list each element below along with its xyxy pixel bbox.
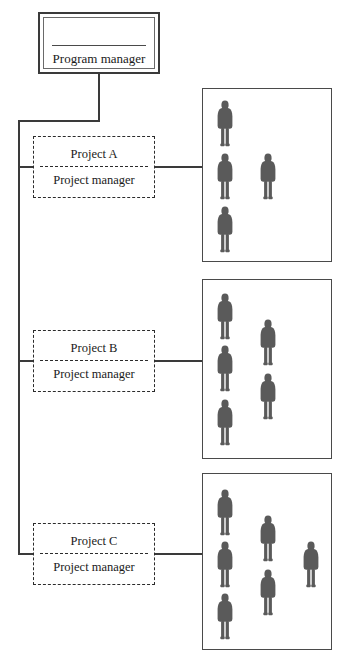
connector-trunk-to-project-b xyxy=(18,360,34,362)
program-manager-box: Program manager xyxy=(38,12,160,74)
connector-project-c-to-team xyxy=(155,553,203,555)
connector-project-a-to-team xyxy=(155,166,203,168)
project-box-project-b: Project B Project manager xyxy=(33,330,155,392)
program-manager-inner-frame: Program manager xyxy=(43,17,155,69)
team-member-icon xyxy=(257,568,279,616)
project-a-divider xyxy=(40,166,148,167)
team-member-icon xyxy=(214,540,236,588)
team-member-icon xyxy=(214,205,236,253)
project-b-role: Project manager xyxy=(34,365,154,383)
connector-program-to-trunk xyxy=(18,120,100,122)
program-manager-divider xyxy=(52,45,146,46)
team-box-project-a xyxy=(202,88,332,262)
project-c-divider xyxy=(40,553,148,554)
team-member-icon xyxy=(214,592,236,640)
team-member-icon xyxy=(214,344,236,392)
project-b-divider xyxy=(40,360,148,361)
team-member-icon xyxy=(214,152,236,200)
team-member-icon xyxy=(257,514,279,562)
team-box-project-c xyxy=(202,473,332,650)
program-manager-label: Program manager xyxy=(44,48,154,70)
team-member-icon xyxy=(214,292,236,340)
team-member-icon xyxy=(214,398,236,446)
team-member-icon xyxy=(214,99,236,147)
connector-trunk-to-project-c xyxy=(18,553,34,555)
project-b-title: Project B xyxy=(34,339,154,357)
org-chart-diagram: Program manager Project A Project manage… xyxy=(0,0,360,661)
connector-trunk-to-project-a xyxy=(18,166,34,168)
team-box-project-b xyxy=(202,279,332,459)
team-member-icon xyxy=(257,152,279,200)
project-box-project-c: Project C Project manager xyxy=(33,523,155,585)
connector-trunk-vertical xyxy=(18,120,20,554)
team-member-icon xyxy=(257,318,279,366)
team-member-icon xyxy=(214,488,236,536)
project-box-project-a: Project A Project manager xyxy=(33,136,155,198)
project-c-title: Project C xyxy=(34,532,154,550)
team-member-icon xyxy=(257,372,279,420)
connector-project-b-to-team xyxy=(155,360,203,362)
team-member-icon xyxy=(300,540,322,588)
project-c-role: Project manager xyxy=(34,558,154,576)
connector-program-down xyxy=(98,74,100,121)
project-a-title: Project A xyxy=(34,145,154,163)
project-a-role: Project manager xyxy=(34,171,154,189)
